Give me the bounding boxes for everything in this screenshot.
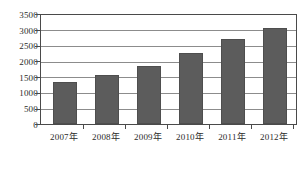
x-axis: 2007年 2008年 2009年 2010年 2011年 2012年 [40, 132, 297, 152]
y-axis-tick-label: 3500 [2, 11, 38, 20]
y-axis-tick-label: 2000 [2, 58, 38, 67]
y-axis-tick-label: 0 [2, 121, 38, 130]
bar-chart: 3500 3000 2500 2000 1500 1000 500 0 [0, 0, 308, 171]
x-axis-tick-mark [293, 125, 294, 129]
x-axis-tick-mark [209, 125, 210, 129]
x-axis-tick-label-2007: 2007年 [40, 132, 88, 143]
bar-2010 [179, 53, 203, 124]
x-axis-tick-mark [125, 125, 126, 129]
y-axis-tick-label: 500 [2, 105, 38, 114]
x-axis-tick-label-2009: 2009年 [124, 132, 172, 143]
x-axis-tick-mark [167, 125, 168, 129]
y-axis-tick-label: 3000 [2, 27, 38, 36]
bar-2008 [95, 75, 119, 124]
x-axis-tick-label-2011: 2011年 [208, 132, 256, 143]
bar-2007 [53, 82, 77, 124]
x-axis-tick-label-2010: 2010年 [166, 132, 214, 143]
bar-2009 [137, 66, 161, 125]
bars-layer [41, 15, 296, 124]
x-axis-tick-mark [251, 125, 252, 129]
bar-2011 [221, 39, 245, 124]
x-axis-tick-label-2012: 2012年 [250, 132, 298, 143]
y-axis-tick-label: 2500 [2, 42, 38, 51]
y-axis-tick-label: 1000 [2, 89, 38, 98]
x-axis-tick-label-2008: 2008年 [82, 132, 130, 143]
y-axis-tick-label: 1500 [2, 74, 38, 83]
y-axis: 3500 3000 2500 2000 1500 1000 500 0 [0, 0, 38, 171]
x-axis-tick-mark [83, 125, 84, 129]
bar-2012 [263, 28, 287, 124]
